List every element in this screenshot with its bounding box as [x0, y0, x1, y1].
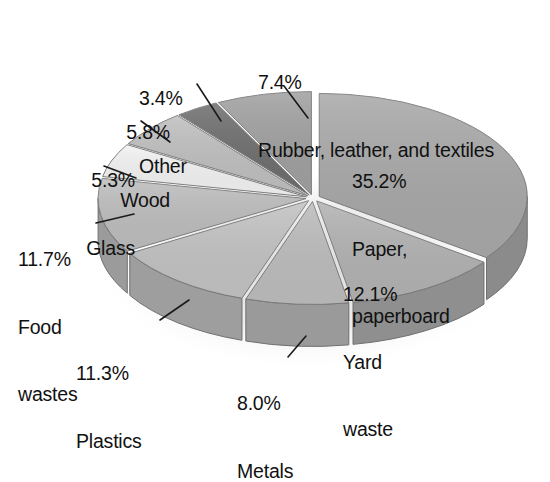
pie-slice-side-metals	[246, 299, 349, 346]
slice-name-food-wastes-line1: Food	[18, 316, 78, 339]
slice-pct-metals: 8.0%	[237, 392, 293, 415]
slice-label-plastics: 11.3% Plastics	[76, 317, 142, 482]
slice-label-metals: 8.0% Metals	[237, 347, 293, 482]
slice-pct-rubber: 7.4%	[258, 71, 494, 94]
slice-pct-yard-waste: 12.1%	[343, 283, 397, 306]
slice-pct-plastics: 11.3%	[76, 362, 142, 385]
slice-label-food-wastes: 11.7% Food wastes	[18, 203, 78, 451]
slice-name-metals: Metals	[237, 460, 293, 482]
slice-name-yard-waste-line1: Yard	[343, 351, 397, 374]
slice-pct-food-wastes: 11.7%	[18, 248, 78, 271]
slice-name-plastics: Plastics	[76, 430, 142, 453]
slice-name-yard-waste-line2: waste	[343, 418, 397, 441]
slice-pct-glass: 5.3%	[0, 169, 135, 192]
slice-pct-paper: 35.2%	[352, 170, 450, 193]
slice-label-yard-waste: 12.1% Yard waste	[343, 238, 397, 482]
slice-name-food-wastes-line2: wastes	[18, 383, 78, 406]
